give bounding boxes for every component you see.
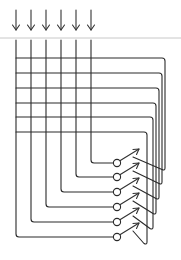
- return-wire: [16, 132, 147, 244]
- crossbar-switch-diagram: [0, 0, 181, 260]
- switch-contacts: [113, 149, 139, 241]
- switch-node: [113, 203, 120, 210]
- return-wire: [16, 103, 156, 214]
- column-wire: [31, 40, 113, 222]
- column-feed-wires: [16, 40, 113, 237]
- return-wire: [16, 73, 162, 184]
- switch-node: [113, 173, 120, 180]
- down-arrow-icon: [28, 10, 35, 30]
- down-arrow-icon: [13, 10, 20, 30]
- switch-node: [113, 233, 120, 240]
- down-arrow-icon: [43, 10, 50, 30]
- down-arrow-icon: [73, 10, 80, 30]
- column-wire: [46, 40, 113, 207]
- input-arrows: [13, 10, 95, 30]
- down-arrow-icon: [88, 10, 95, 30]
- switch-node: [113, 188, 120, 195]
- column-wire: [76, 40, 113, 177]
- column-wire: [61, 40, 113, 192]
- down-arrow-icon: [58, 10, 65, 30]
- switch-node: [113, 218, 120, 225]
- switch-node: [113, 159, 120, 166]
